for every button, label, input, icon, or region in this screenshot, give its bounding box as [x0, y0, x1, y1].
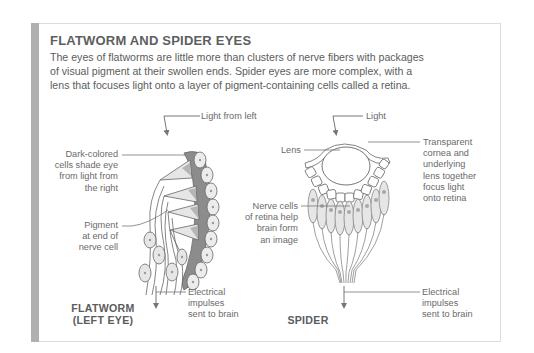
flatworm-impulse-label: Electrical impulses sent to brain	[188, 287, 239, 321]
pigment-label: Pigment at end of nerve cell	[40, 220, 118, 254]
label-line: cells shade eye	[40, 160, 118, 171]
label-line: sent to brain	[422, 309, 473, 320]
spider-light-arrow	[333, 116, 363, 133]
flatworm-title: FLATWORM (LEFT EYE)	[58, 302, 148, 326]
label-line: focus light	[423, 182, 476, 193]
spider-title: SPIDER	[278, 314, 338, 326]
label-line: sent to brain	[188, 309, 239, 320]
retina-label: Nerve cells of retina help brain form an…	[226, 201, 298, 246]
label-line: nerve cell	[40, 242, 118, 253]
label-line: brain form	[226, 223, 298, 234]
species-qualifier: (LEFT EYE)	[58, 314, 148, 326]
label-line: onto retina	[423, 193, 476, 204]
spider-eye-drawing	[305, 144, 390, 283]
flatworm-light-arrow	[164, 116, 200, 133]
lens-label: Lens	[281, 145, 301, 156]
label-line: lens together	[423, 171, 476, 182]
label-line: Transparent	[423, 137, 476, 148]
label-line: from light from	[40, 171, 118, 182]
flatworm-light-label: Light from left	[201, 111, 257, 122]
cornea-label: Transparent cornea and underlying lens t…	[423, 137, 476, 204]
spider-impulse-arrow	[344, 286, 420, 306]
label-line: of retina help	[226, 212, 298, 223]
label-line: underlying	[423, 159, 476, 170]
label-line: impulses	[188, 298, 239, 309]
label-line: Nerve cells	[226, 201, 298, 212]
flatworm-eye-drawing	[139, 152, 219, 295]
label-line: Electrical	[188, 287, 239, 298]
spider-impulse-label: Electrical impulses sent to brain	[422, 287, 473, 321]
label-line: impulses	[422, 298, 473, 309]
label-line: Pigment	[40, 220, 118, 231]
label-line: cornea and	[423, 148, 476, 159]
label-line: Electrical	[422, 287, 473, 298]
label-line: the right	[40, 183, 118, 194]
label-line: Dark-colored	[40, 149, 118, 160]
label-line: an image	[226, 235, 298, 246]
dark-cells-label: Dark-colored cells shade eye from light …	[40, 149, 118, 194]
label-line: at end of	[40, 231, 118, 242]
species-name: FLATWORM	[58, 302, 148, 314]
spider-light-label: Light	[366, 111, 386, 122]
